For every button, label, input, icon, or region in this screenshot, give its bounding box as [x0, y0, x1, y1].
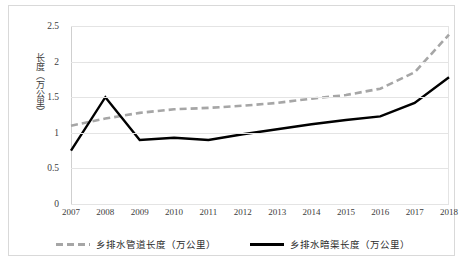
- gridline: [71, 97, 449, 98]
- y-tick-label: 2.5: [13, 21, 59, 31]
- series-layer: [71, 26, 449, 204]
- gridline: [71, 26, 449, 27]
- legend-item[interactable]: 乡排水暗渠长度（万公里）: [250, 237, 410, 251]
- chart-legend: 乡排水管道长度（万公里）乡排水暗渠长度（万公里）: [9, 234, 456, 254]
- gridline: [71, 133, 449, 134]
- gridline: [71, 62, 449, 63]
- gridline: [71, 204, 449, 205]
- legend-item[interactable]: 乡排水管道长度（万公里）: [56, 237, 216, 251]
- legend-label: 乡排水管道长度（万公里）: [96, 237, 216, 251]
- x-tick-label: 2018: [429, 207, 462, 217]
- y-tick-label: 2: [13, 57, 59, 67]
- plot-area: [71, 26, 449, 204]
- y-axis-tick-labels: 00.511.522.5: [9, 26, 65, 204]
- x-axis-tick-labels: 2007200820092010201120122013201420152016…: [71, 207, 449, 223]
- y-tick-label: 0.5: [13, 163, 59, 173]
- legend-swatch-solid-icon: [250, 243, 284, 246]
- y-tick-label: 1: [13, 128, 59, 138]
- legend-swatch-dashed-icon: [56, 243, 90, 246]
- chart-figure: 长度（万公里） 00.511.522.5 2007200820092010201…: [8, 5, 455, 256]
- gridline: [71, 168, 449, 169]
- y-tick-label: 1.5: [13, 92, 59, 102]
- legend-label: 乡排水暗渠长度（万公里）: [290, 237, 410, 251]
